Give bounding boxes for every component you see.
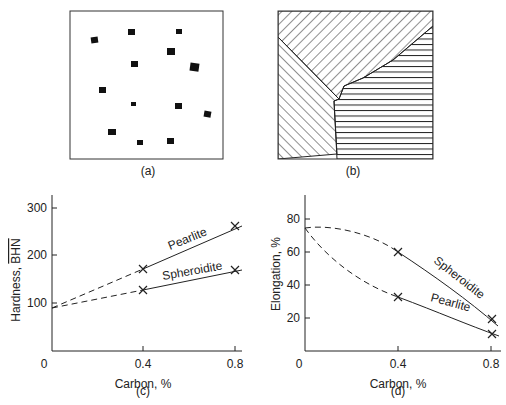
hardness-chart: 300 200 100 0 0.4 0.8 Carbon, % Hardness… bbox=[0, 190, 253, 405]
x-tick-0.4: 0.4 bbox=[390, 357, 407, 371]
x-tick-0: 0 bbox=[296, 357, 303, 371]
x-tick-0: 0 bbox=[41, 357, 48, 371]
figure: (a) (b) bbox=[0, 0, 506, 405]
y-tick-300: 300 bbox=[27, 201, 47, 215]
y-tick-60: 60 bbox=[287, 245, 301, 259]
pearlite-dashed-curve bbox=[305, 228, 398, 297]
panel-c-caption: (c) bbox=[128, 384, 158, 398]
pearlite-dashed-line bbox=[52, 269, 143, 308]
spheroidite-label: Spheroidite bbox=[161, 259, 224, 283]
y-tick-200: 200 bbox=[27, 248, 47, 262]
elongation-chart: 80 60 40 20 0 0.4 0.8 Carbon, % Elongati… bbox=[253, 190, 506, 405]
panel-a-diagram bbox=[0, 0, 253, 190]
x-tick-0.8: 0.8 bbox=[227, 357, 244, 371]
y-tick-20: 20 bbox=[287, 311, 301, 325]
y-axis-label: Hardness, BHN bbox=[9, 238, 23, 321]
y-tick-40: 40 bbox=[287, 278, 301, 292]
spheroidite-dashed-curve bbox=[305, 227, 398, 252]
y-tick-100: 100 bbox=[27, 296, 47, 310]
x-tick-0.4: 0.4 bbox=[135, 357, 152, 371]
pearlite-label: Pearlite bbox=[166, 224, 209, 252]
x-tick-0.8: 0.8 bbox=[483, 357, 500, 371]
panel-a-caption: (a) bbox=[133, 164, 163, 178]
y-axis-label: Elongation, % bbox=[269, 237, 283, 311]
y-tick-80: 80 bbox=[287, 212, 301, 226]
panel-b-diagram bbox=[253, 0, 506, 190]
panel-d-caption: (d) bbox=[383, 384, 413, 398]
panel-b-caption: (b) bbox=[338, 164, 368, 178]
pearlite-label: Pearlite bbox=[429, 290, 472, 314]
spheroidite-dashed-line bbox=[52, 290, 143, 308]
